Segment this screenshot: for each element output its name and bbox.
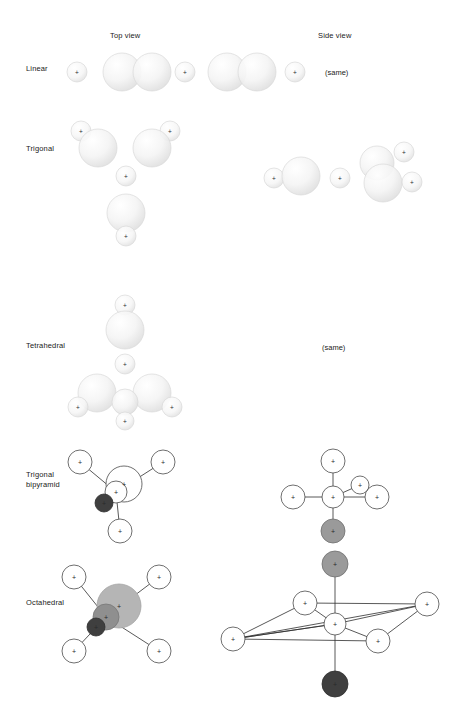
same-note-tetrahedral: (same) [322,343,345,352]
charge-plus-glyph: + [168,128,172,135]
charge-plus-glyph: + [358,482,362,489]
charge-plus-glyph: + [123,302,127,309]
molecular-geometry-figure: Top view Side view Linear Trigonal Tetra… [0,0,458,721]
charge-plus-glyph: + [72,574,76,581]
orbital-lobe-large [106,311,144,349]
charge-plus-glyph: + [375,494,379,501]
charge-plus-glyph: + [78,459,82,466]
orbital-lobe-large [364,164,402,202]
charge-plus-glyph: + [331,528,335,535]
charge-plus-glyph: + [123,361,127,368]
charge-plus-glyph: + [410,179,414,186]
same-note-linear: (same) [325,68,348,77]
orbital-lobe-large [79,129,117,167]
charge-plus-glyph: + [333,561,337,568]
charge-plus-glyph: + [402,149,406,156]
bond-line [305,603,427,604]
charge-plus-glyph: + [170,404,174,411]
charge-plus-glyph: + [72,648,76,655]
bond-line [233,639,378,641]
column-heading-top-view: Top view [110,31,140,40]
charge-plus-glyph: + [117,603,121,610]
charge-plus-glyph: + [331,458,335,465]
charge-plus-glyph: + [124,233,128,240]
charge-plus-glyph: + [75,69,79,76]
charge-plus-glyph: + [157,648,161,655]
charge-plus-glyph: + [333,621,337,628]
row-label-tetrahedral: Tetrahedral [26,341,65,351]
charge-plus-glyph: + [183,69,187,76]
shape-layer [62,53,439,697]
orbital-lobe-large [112,389,138,415]
charge-plus-glyph: + [231,636,235,643]
row-label-octahedral: Octahedral [26,598,64,608]
charge-plus-glyph: + [123,418,127,425]
charge-plus-glyph: + [291,494,295,501]
charge-plus-glyph: + [333,681,337,688]
column-heading-side-view: Side view [318,31,351,40]
charge-plus-glyph: + [157,574,161,581]
geometry-canvas: ++++++++++++++++++++++++++++++++++++++++… [0,0,458,721]
charge-plus-glyph: + [102,500,106,507]
charge-plus-glyph: + [303,600,307,607]
charge-plus-glyph: + [338,175,342,182]
row-label-linear: Linear [26,64,48,74]
orbital-lobe-large [238,53,276,91]
charge-plus-glyph: + [118,528,122,535]
orbital-lobe-large [282,157,320,195]
charge-plus-glyph: + [425,601,429,608]
charge-plus-glyph: + [376,638,380,645]
charge-plus-glyph: + [114,489,118,496]
charge-plus-glyph: + [331,494,335,501]
charge-plus-glyph: + [124,173,128,180]
charge-plus-glyph: + [94,624,98,631]
charge-plus-glyph: + [293,69,297,76]
orbital-lobe-large [133,129,171,167]
charge-plus-glyph: + [79,128,83,135]
orbital-lobe-large [133,53,171,91]
charge-plus-glyph: + [76,404,80,411]
charge-plus-glyph: + [161,459,165,466]
charge-plus-glyph: + [272,175,276,182]
charge-plus-glyph: + [104,614,108,621]
row-label-trigonal-bipyramid: Trigonal bipyramid [26,470,60,490]
charge-plus-glyph: + [122,481,126,488]
row-label-trigonal: Trigonal [26,144,54,154]
